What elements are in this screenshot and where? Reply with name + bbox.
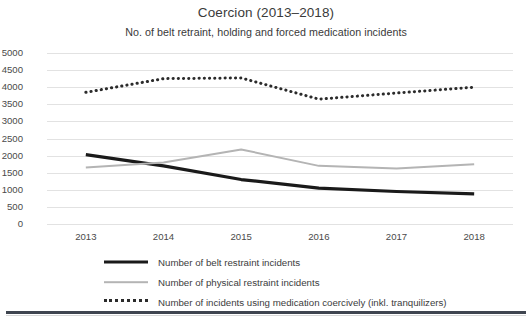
y-axis-tick-label: 500	[0, 201, 23, 212]
x-axis-tick-label: 2013	[56, 231, 116, 242]
y-axis-tick-label: 4500	[0, 64, 23, 75]
y-axis-tick-label: 2000	[0, 150, 23, 161]
legend-item-label: Number of incidents using medication coe…	[158, 297, 447, 308]
series-layer	[47, 53, 513, 224]
solid-gray-line-icon	[104, 276, 148, 288]
y-axis-tick-label: 0	[0, 218, 23, 229]
y-axis-tick-label: 1000	[0, 184, 23, 195]
legend-item-label: Number of physical restraint incidents	[158, 277, 320, 288]
y-axis-tick-label: 3500	[0, 98, 23, 109]
x-axis-tick-label: 2017	[367, 231, 427, 242]
dotted-black-line-icon	[104, 296, 148, 308]
x-axis-tick-label: 2018	[444, 231, 504, 242]
chart-title: Coercion (2013–2018)	[0, 5, 532, 20]
chart-subtitle: No. of belt retraint, holding and forced…	[0, 26, 532, 38]
chart-legend: Number of belt restraint incidents Numbe…	[104, 252, 504, 312]
gridline	[47, 224, 513, 225]
bottom-rule-shadow	[6, 315, 526, 316]
legend-item-label: Number of belt restraint incidents	[158, 257, 300, 268]
series-line	[86, 155, 474, 194]
legend-item: Number of physical restraint incidents	[104, 272, 504, 292]
series-line	[86, 149, 474, 168]
x-axis-tick-label: 2016	[289, 231, 349, 242]
x-axis-tick-label: 2015	[211, 231, 271, 242]
coercion-line-chart: Coercion (2013–2018) No. of belt retrain…	[0, 0, 532, 327]
x-axis-tick-label: 2014	[134, 231, 194, 242]
y-axis-tick-label: 3000	[0, 115, 23, 126]
bottom-rule	[6, 311, 526, 314]
y-axis-tick-label: 5000	[0, 47, 23, 58]
solid-black-line-icon	[104, 256, 148, 268]
plot-area: 5000450040003500300025002000150010005000…	[47, 53, 513, 224]
y-axis-tick-label: 4000	[0, 81, 23, 92]
series-line	[86, 78, 474, 99]
legend-item: Number of belt restraint incidents	[104, 252, 504, 272]
y-axis-tick-label: 2500	[0, 133, 23, 144]
y-axis-tick-label: 1500	[0, 167, 23, 178]
legend-item: Number of incidents using medication coe…	[104, 292, 504, 312]
